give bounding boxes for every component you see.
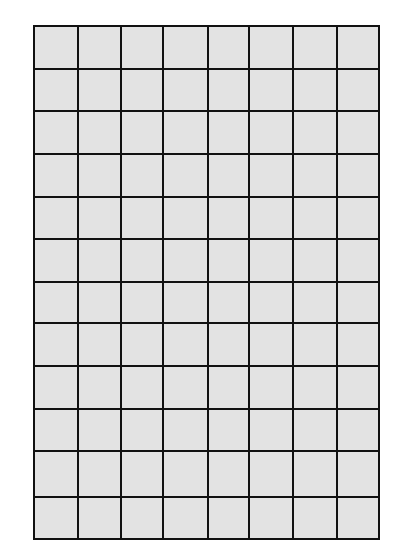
grid-row-line xyxy=(35,365,378,367)
grid-row-line xyxy=(35,238,378,240)
grid-row-line xyxy=(35,110,378,112)
grid-row-line xyxy=(35,496,378,498)
grid-row-line xyxy=(35,68,378,70)
grid-row-line xyxy=(35,153,378,155)
grid-row-line xyxy=(35,450,378,452)
grid-row-line xyxy=(35,322,378,324)
grid-row-line xyxy=(35,281,378,283)
grid-row-line xyxy=(35,196,378,198)
grid-diagram xyxy=(33,25,380,540)
grid-row-line xyxy=(35,408,378,410)
